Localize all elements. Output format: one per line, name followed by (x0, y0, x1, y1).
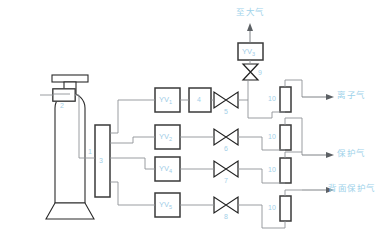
diagram-canvas (0, 0, 381, 243)
label-yv4-sub: 4 (169, 168, 172, 174)
label-yv3: YV3 (242, 48, 255, 56)
label-yv1-sub: 1 (169, 99, 172, 105)
tag-regulator: 2 (60, 102, 64, 109)
label-vent-to-atmosphere: 至大气 (236, 8, 265, 17)
label-yv5: YV5 (159, 201, 172, 209)
manual-valve-9 (243, 64, 258, 80)
label-shielding-gas: 保护气 (337, 149, 366, 158)
label-plasma-gas: 离子气 (337, 91, 366, 100)
flowmeter-4 (280, 196, 291, 221)
tag-flowmeter-1: 10 (268, 95, 276, 102)
manual-valve-6 (214, 129, 238, 145)
label-back-shielding-gas: 背面保护气 (328, 184, 376, 193)
label-yv5-base: YV (159, 200, 169, 209)
label-yv4-base: YV (159, 164, 169, 173)
tag-valve-6: 6 (224, 145, 228, 152)
tag-flowmeter-2: 10 (268, 133, 276, 140)
flowmeter-3 (280, 158, 291, 183)
tag-manifold: 3 (99, 157, 103, 164)
label-yv3-base: YV (242, 47, 252, 56)
tag-filter: 4 (197, 96, 201, 103)
label-yv3-sub: 3 (252, 51, 255, 57)
flowmeter-2 (280, 125, 291, 150)
tag-flowmeter-4: 10 (268, 204, 276, 211)
tag-flowmeter-3: 10 (268, 166, 276, 173)
flowmeter-1 (280, 87, 291, 112)
tag-valve-9: 9 (258, 69, 262, 76)
label-yv2-sub: 2 (169, 136, 172, 142)
manual-valve-7 (214, 161, 238, 177)
label-yv2: YV2 (159, 133, 172, 141)
manual-valve-5 (214, 92, 238, 108)
process-flow-diagram: 1 2 3 4 YV1 YV2 YV3 YV4 YV5 5 6 7 8 9 10… (0, 0, 381, 243)
label-yv1: YV1 (159, 96, 172, 104)
tag-valve-7: 7 (224, 177, 228, 184)
tag-valve-5: 5 (224, 108, 228, 115)
tag-valve-8: 8 (224, 213, 228, 220)
label-yv4: YV4 (159, 165, 172, 173)
label-yv5-sub: 5 (169, 204, 172, 210)
tag-cylinder: 1 (88, 148, 92, 155)
label-yv2-base: YV (159, 132, 169, 141)
label-yv1-base: YV (159, 95, 169, 104)
manual-valve-8 (214, 197, 238, 213)
